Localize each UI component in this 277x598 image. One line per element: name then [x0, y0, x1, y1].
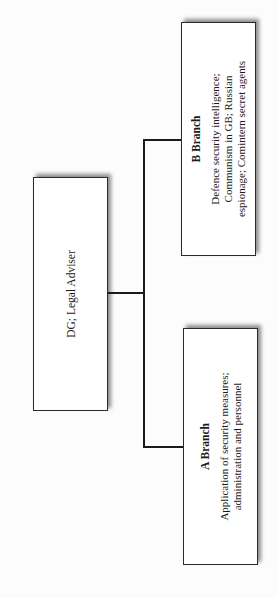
a-branch-title: A Branch: [198, 423, 212, 470]
b-branch-description: Defence security intelligence; Communism…: [209, 57, 248, 222]
connector-horizontal-bar: [143, 139, 145, 448]
a-branch-description: Application of security measures; admini…: [218, 372, 244, 522]
connector-root-stem: [108, 292, 145, 294]
b-branch-title: B Branch: [189, 116, 203, 163]
org-chart: DG; Legal Adviser A Branch Application o…: [0, 0, 277, 598]
a-branch-box: A Branch Application of security measure…: [183, 328, 258, 565]
connector-b-branch-drop: [143, 139, 181, 141]
connector-a-branch-drop: [143, 446, 183, 448]
root-box-dg-legal-adviser: DG; Legal Adviser: [33, 177, 108, 411]
b-branch-box: B Branch Defence security intelligence; …: [181, 22, 256, 256]
root-label: DG; Legal Adviser: [64, 250, 78, 338]
